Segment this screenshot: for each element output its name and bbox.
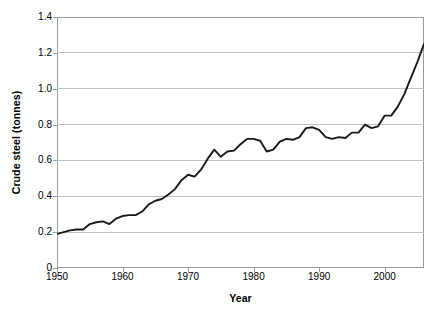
x-tick-label: 1990 — [294, 272, 344, 282]
x-tick-mark — [385, 268, 386, 272]
x-tick-mark — [57, 268, 58, 272]
x-tick-mark — [188, 268, 189, 272]
x-tick-label: 1970 — [163, 272, 213, 282]
y-tick-label: 1.4 — [4, 12, 52, 22]
x-tick-label: 1950 — [32, 272, 82, 282]
x-tick-mark — [319, 268, 320, 272]
y-tick-label: 0.4 — [4, 191, 52, 201]
x-tick-mark — [123, 268, 124, 272]
x-axis-title: Year — [57, 292, 424, 304]
chart-container: Crude steel (tonnes) 00.20.40.60.81.01.2… — [0, 0, 437, 322]
y-tick-label: 0.6 — [4, 155, 52, 165]
data-line — [57, 44, 424, 234]
y-tick-label: 0.8 — [4, 120, 52, 130]
y-tick-label: 1.0 — [4, 84, 52, 94]
y-tick-label: 0.2 — [4, 227, 52, 237]
x-tick-label: 2000 — [360, 272, 410, 282]
y-tick-label: 1.2 — [4, 48, 52, 58]
x-tick-label: 1960 — [98, 272, 148, 282]
x-tick-label: 1980 — [229, 272, 279, 282]
x-tick-mark — [254, 268, 255, 272]
chart-plot-svg — [57, 17, 424, 268]
